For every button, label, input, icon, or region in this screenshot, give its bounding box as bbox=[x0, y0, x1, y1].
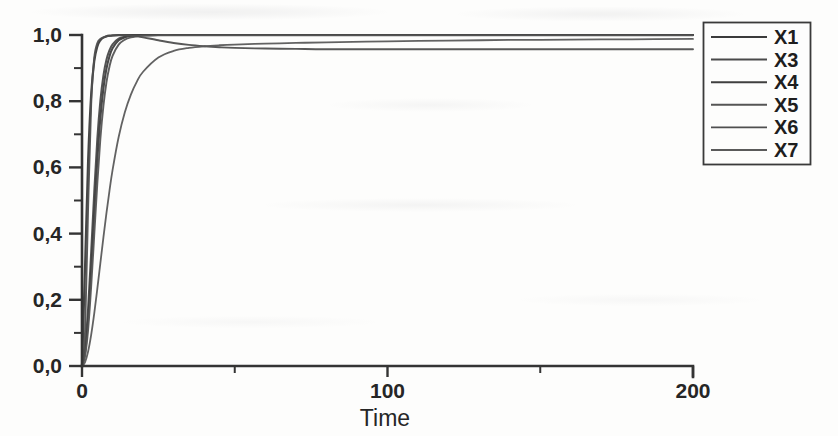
series-group bbox=[82, 35, 693, 366]
legend-label-x7: X7 bbox=[774, 139, 798, 161]
legend-label-x5: X5 bbox=[774, 94, 798, 116]
series-line-x3 bbox=[82, 35, 693, 366]
legend-label-x6: X6 bbox=[774, 116, 798, 138]
legend-items: X1X3X4X5X6X7 bbox=[711, 26, 799, 161]
x-axis-tick-labels: 0100200 bbox=[76, 379, 710, 402]
series-line-x6 bbox=[82, 35, 693, 366]
series-line-x7 bbox=[82, 39, 693, 366]
series-line-x1 bbox=[82, 35, 693, 366]
y-tick-label: 0,2 bbox=[33, 288, 62, 311]
x-tick-label: 0 bbox=[76, 379, 88, 402]
legend: X1X3X4X5X6X7 bbox=[704, 23, 811, 165]
x-axis-ticks bbox=[82, 366, 693, 377]
legend-label-x1: X1 bbox=[774, 26, 798, 48]
x-tick-label: 200 bbox=[675, 379, 710, 402]
series-line-x4 bbox=[82, 35, 693, 366]
x-axis-title: Time bbox=[360, 405, 410, 431]
y-tick-label: 0,4 bbox=[33, 222, 63, 245]
legend-label-x3: X3 bbox=[774, 49, 798, 71]
y-tick-label: 1,0 bbox=[33, 23, 62, 46]
y-tick-label: 0,0 bbox=[33, 354, 62, 377]
y-axis-tick-labels: 1,00,80,60,40,20,0 bbox=[33, 23, 63, 377]
y-tick-label: 0,6 bbox=[33, 155, 62, 178]
chart-canvas: 1,00,80,60,40,20,0 0100200 Time X1X3X4X5… bbox=[0, 0, 838, 436]
series-line-x5 bbox=[82, 35, 693, 366]
y-tick-label: 0,8 bbox=[33, 89, 63, 112]
x-tick-label: 100 bbox=[370, 379, 405, 402]
y-axis-ticks bbox=[69, 35, 82, 366]
legend-label-x4: X4 bbox=[774, 71, 799, 93]
line-chart: 1,00,80,60,40,20,0 0100200 Time X1X3X4X5… bbox=[0, 0, 838, 436]
axes-group bbox=[69, 35, 693, 377]
